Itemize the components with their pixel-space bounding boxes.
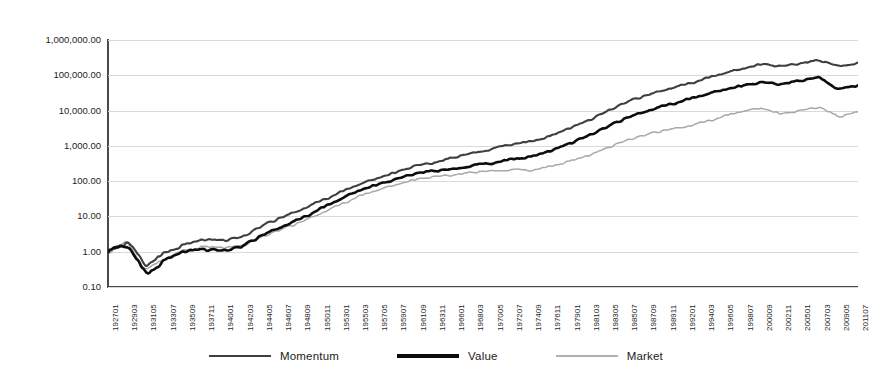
- x-axis-tick-label: 194405: [266, 304, 274, 331]
- y-axis-tick-label: 1,000,000.00: [0, 34, 101, 45]
- x-axis-tick-label: 196803: [477, 304, 485, 331]
- x-axis-tick-label: 192701: [112, 304, 120, 331]
- x-axis-tick-label: 198911: [670, 305, 678, 331]
- x-axis-tick-label: 194001: [227, 304, 235, 331]
- x-axis-tick-label: 200703: [824, 304, 832, 331]
- legend-label: Value: [468, 350, 498, 362]
- y-axis-tick-label: 1.00: [0, 246, 101, 257]
- x-axis-tick-label: 199201: [689, 304, 697, 331]
- legend-item-market[interactable]: Market: [556, 350, 663, 362]
- x-axis-tick-label: 198507: [631, 304, 639, 331]
- x-axis-tick-label: 199605: [727, 304, 735, 331]
- x-axis-tick-label: 200501: [804, 304, 812, 331]
- x-axis-tick-label: 195907: [400, 304, 408, 331]
- legend-label: Momentum: [280, 350, 339, 362]
- y-axis-tick-label: 1,000.00: [0, 140, 101, 151]
- x-axis-tick-label: 196109: [420, 304, 428, 331]
- x-axis-tick-label: 195705: [381, 304, 389, 331]
- x-axis-tick-label: 197901: [574, 304, 582, 331]
- x-axis-tick-label: 198709: [650, 304, 658, 331]
- y-axis-tick-label: 100.00: [0, 175, 101, 186]
- x-axis-tick-label: 197207: [516, 304, 524, 331]
- x-axis-tick-label: 193509: [189, 304, 197, 331]
- chart-legend: MomentumValueMarket: [0, 345, 872, 367]
- legend-swatch-value: [397, 354, 459, 357]
- legend-item-momentum[interactable]: Momentum: [209, 350, 339, 362]
- x-axis-tick-label: 193711: [208, 305, 216, 331]
- plot-area: [108, 40, 858, 287]
- x-axis-tick-label: 197611: [554, 305, 562, 331]
- x-axis-tick-label: 195011: [324, 305, 332, 331]
- x-axis-tick-label: 199807: [747, 304, 755, 331]
- y-axis-tick-label: 0.10: [0, 281, 101, 292]
- x-axis-tick-label: 194203: [247, 304, 255, 331]
- x-axis-tick-label: 197005: [497, 304, 505, 331]
- x-axis-tick-label: 200905: [843, 304, 851, 331]
- x-axis-tick-label: 195503: [362, 304, 370, 331]
- x-axis-tick-label: 199403: [708, 304, 716, 331]
- x-axis-tick-label: 200211: [785, 305, 793, 331]
- x-axis-tick-label: 198305: [612, 304, 620, 331]
- x-axis-tick-label: 194607: [285, 304, 293, 331]
- y-axis-tick-label: 10,000.00: [0, 105, 101, 116]
- legend-item-value[interactable]: Value: [397, 350, 498, 362]
- x-axis-tick-label: 201107: [862, 305, 870, 331]
- chart-container: 1,000,000.00100,000.0010,000.001,000.001…: [0, 0, 872, 382]
- x-axis-tick-label: 193105: [150, 304, 158, 331]
- x-axis-tick-label: 197409: [535, 304, 543, 331]
- series-line-market: [108, 107, 858, 268]
- series-lines: [108, 40, 858, 287]
- x-axis-tick-label: 192903: [131, 304, 139, 331]
- legend-label: Market: [627, 350, 663, 362]
- x-axis-tick-label: 196601: [458, 304, 466, 331]
- x-axis-tick-label: 195301: [343, 304, 351, 331]
- x-axis-tick-label: 196311: [439, 305, 447, 331]
- x-axis-tick-label: 200009: [766, 304, 774, 331]
- x-axis-tick-labels: 1927011929031931051933071935091937111940…: [108, 291, 858, 337]
- legend-swatch-market: [556, 355, 618, 356]
- legend-swatch-momentum: [209, 355, 271, 357]
- y-axis-tick-label: 100,000.00: [0, 69, 101, 80]
- x-axis-tick-label: 193307: [170, 304, 178, 331]
- y-axis-tick-label: 10.00: [0, 210, 101, 221]
- gridline: [108, 287, 858, 288]
- series-line-value: [108, 77, 858, 273]
- x-axis-tick-label: 194809: [304, 304, 312, 331]
- x-axis-tick-label: 198103: [593, 304, 601, 331]
